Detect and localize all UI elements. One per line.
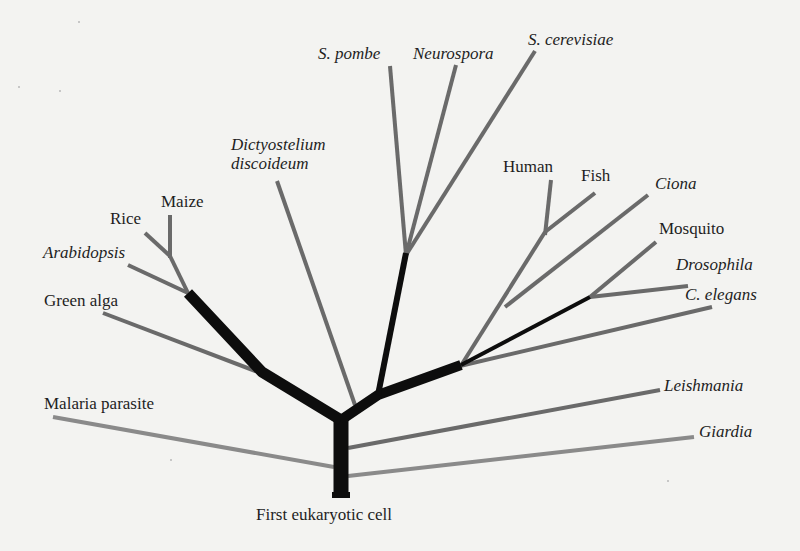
taxon-label-green-alga: Green alga	[44, 291, 118, 310]
root-label: First eukaryotic cell	[256, 505, 392, 524]
branch-giardia	[348, 437, 694, 476]
taxon-label-c-elegans: C. elegans	[685, 285, 757, 304]
paper-speck	[170, 459, 172, 461]
taxon-label-s-pombe: S. pombe	[318, 44, 380, 63]
tree-branches	[0, 0, 800, 551]
taxon-label-neurospora: Neurospora	[413, 44, 494, 63]
branch-protostome-lineage	[461, 297, 590, 365]
branch-leishmania	[348, 390, 660, 448]
taxon-label-giardia: Giardia	[699, 422, 752, 441]
branch-fish	[545, 193, 595, 232]
branch-plant-lineage	[188, 293, 341, 420]
taxon-label-dictyostelium: Dictyostelium discoideum	[231, 135, 325, 173]
taxon-label-ciona: Ciona	[655, 174, 697, 193]
branch-c-elegans	[460, 307, 712, 366]
taxon-label-rice: Rice	[110, 209, 141, 228]
branch-fungi-lineage	[378, 253, 406, 395]
branch-opisthokont-lineage	[341, 365, 461, 420]
branch-malaria	[53, 417, 334, 467]
taxon-label-fish: Fish	[581, 166, 610, 185]
branch-ciona	[505, 195, 648, 307]
phylogenetic-tree-diagram: Malaria parasite Green alga Arabidopsis …	[0, 0, 800, 551]
branch-s-cerevisiae	[406, 51, 535, 255]
taxon-label-s-cerevisiae: S. cerevisiae	[528, 30, 613, 49]
branch-rice	[145, 233, 170, 256]
paper-speck	[18, 86, 20, 88]
taxon-label-drosophila: Drosophila	[676, 255, 753, 274]
taxon-label-mosquito: Mosquito	[659, 219, 724, 238]
branch-s-pombe	[390, 66, 406, 255]
branch-dictyostelium	[277, 181, 355, 405]
taxon-label-malaria: Malaria parasite	[44, 394, 154, 413]
paper-speck	[667, 480, 669, 482]
taxon-label-leishmania: Leishmania	[664, 376, 743, 395]
branch-neurospora	[406, 65, 456, 255]
paper-speck	[59, 90, 61, 92]
taxon-label-human: Human	[503, 157, 553, 176]
taxon-label-maize: Maize	[161, 192, 203, 211]
paper-speck	[78, 21, 80, 23]
root-foot	[332, 492, 350, 498]
taxon-label-arabidopsis: Arabidopsis	[43, 243, 125, 262]
branch-drosophila	[590, 286, 688, 297]
